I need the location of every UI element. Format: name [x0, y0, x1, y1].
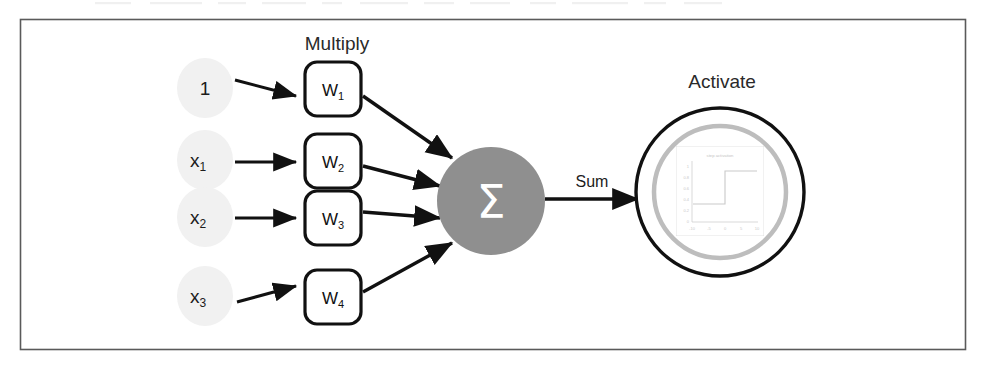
- input-label-x1-base: x: [190, 150, 200, 171]
- weight-box-w4-sub: 4: [338, 298, 344, 310]
- plot-xtick-0: -10: [689, 226, 696, 231]
- weight-box-w2-sub: 2: [338, 162, 344, 174]
- figure-root: 1 x1 x2 x3 Multiply W1: [0, 0, 986, 369]
- page-top-cutoff-text: [95, 2, 722, 4]
- sum-edge-label: Sum: [576, 173, 609, 190]
- input-label-x1-sub: 1: [199, 160, 206, 174]
- weight-box-w2: W2: [305, 134, 361, 188]
- input-label-bias: 1: [200, 78, 211, 99]
- plot-ytick-3: 0.6: [683, 186, 689, 191]
- input-label-x3-base: x: [190, 286, 200, 307]
- plot-xtick-4: 10: [755, 226, 760, 231]
- plot-title: step activation: [707, 153, 734, 158]
- sum-node-sigma-icon: Σ: [476, 175, 505, 229]
- weight-box-w4: W4: [305, 270, 361, 324]
- weight-box-w4-base: W: [322, 289, 338, 308]
- plot-ytick-1: 0.2: [683, 208, 689, 213]
- perceptron-diagram-svg: 1 x1 x2 x3 Multiply W1: [0, 0, 986, 369]
- weight-box-w2-base: W: [322, 153, 338, 172]
- multiply-label: Multiply: [305, 33, 370, 54]
- input-label-x2-sub: 2: [199, 217, 206, 231]
- weight-box-w3-base: W: [322, 210, 338, 229]
- weight-box-w1: W1: [305, 62, 361, 116]
- sum-node: Σ: [437, 147, 545, 255]
- activation-node: step activation 1 0.8 0.6 0.4 0.2 0 -10 …: [636, 108, 804, 276]
- weight-boxes: W1 W2 W3 W4: [305, 62, 361, 324]
- weight-box-w1-base: W: [322, 81, 338, 100]
- weight-box-w1-sub: 1: [338, 90, 344, 102]
- input-label-x2-base: x: [190, 207, 200, 228]
- input-label-x3-sub: 3: [199, 296, 206, 310]
- plot-panel: [676, 146, 764, 236]
- activation-step-plot: step activation 1 0.8 0.6 0.4 0.2 0 -10 …: [676, 146, 764, 236]
- weight-box-w3-sub: 3: [338, 219, 344, 231]
- activate-label: Activate: [688, 71, 756, 92]
- plot-ytick-4: 0.8: [683, 175, 689, 180]
- weight-box-w3: W3: [305, 191, 361, 245]
- plot-ytick-2: 0.4: [683, 197, 689, 202]
